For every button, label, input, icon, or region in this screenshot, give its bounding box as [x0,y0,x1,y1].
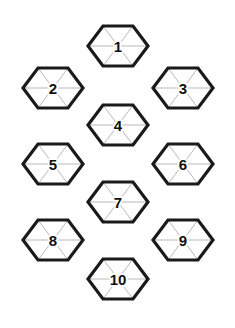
hex-label-2: 2 [49,80,57,97]
hex-label-1: 1 [114,38,122,55]
hex-label-7: 7 [114,194,122,211]
hex-label-10: 10 [110,271,127,288]
hex-labels-layer: 12345678910 [49,38,187,288]
hex-label-8: 8 [49,232,57,249]
hexagon-puzzle-board: 12345678910 [0,0,235,328]
hex-label-4: 4 [114,117,123,134]
hex-label-3: 3 [179,80,187,97]
hex-label-5: 5 [49,156,57,173]
hex-label-9: 9 [179,232,187,249]
hex-label-6: 6 [179,156,187,173]
hexagon-grid-svg: 12345678910 [0,0,235,328]
